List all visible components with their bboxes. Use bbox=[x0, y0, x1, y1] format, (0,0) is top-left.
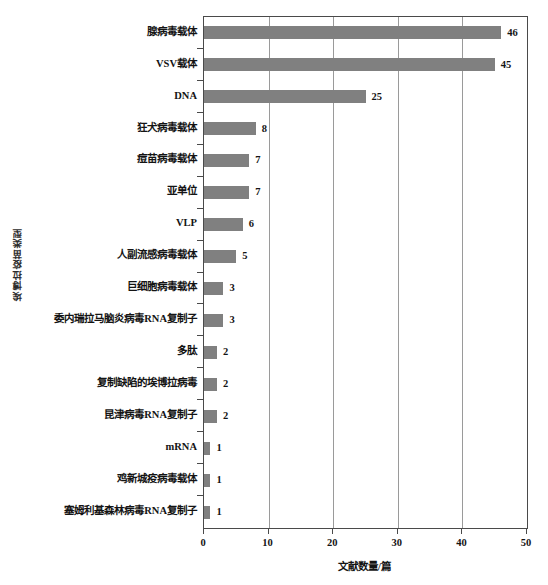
bar-value-label: 1 bbox=[216, 507, 221, 518]
bar-row: 6 bbox=[204, 209, 527, 241]
bar-row: 1 bbox=[204, 464, 527, 496]
bar-row: 3 bbox=[204, 273, 527, 305]
bar-row: 1 bbox=[204, 496, 527, 528]
category-label: 昆津病毒RNA复制子 bbox=[36, 399, 203, 431]
bar-value-label: 7 bbox=[255, 155, 260, 166]
x-axis-tick-labels: 01020304050 bbox=[203, 537, 526, 553]
category-label: VSV载体 bbox=[36, 48, 203, 80]
bar-row: 46 bbox=[204, 17, 527, 49]
x-axis-tick-label: 0 bbox=[200, 537, 205, 548]
bar-value-label: 45 bbox=[501, 60, 512, 71]
category-label: VLP bbox=[36, 208, 203, 240]
category-label: DNA bbox=[36, 80, 203, 112]
bar bbox=[204, 218, 243, 231]
category-label: 人副流感病毒载体 bbox=[36, 240, 203, 272]
bar-row: 7 bbox=[204, 177, 527, 209]
plot-area: 4645258776533222111 bbox=[203, 16, 528, 529]
category-label: 亚单位 bbox=[36, 176, 203, 208]
category-label: 巨细胞病毒载体 bbox=[36, 272, 203, 304]
bar-value-label: 3 bbox=[229, 315, 234, 326]
bar-row: 1 bbox=[204, 432, 527, 464]
ebola-vaccine-type-bar-chart: 埃博拉疫苗类型 腺病毒载体VSV载体DNA狂犬病毒载体痘苗病毒载体亚单位VLP人… bbox=[0, 0, 548, 585]
category-label: 腺病毒载体 bbox=[36, 16, 203, 48]
bar bbox=[204, 154, 249, 167]
bar-row: 5 bbox=[204, 241, 527, 273]
y-axis-title-text: 埃博拉疫苗类型 bbox=[11, 227, 25, 301]
bar-value-label: 8 bbox=[262, 124, 267, 135]
x-axis-tick-label: 40 bbox=[456, 537, 467, 548]
category-axis-labels: 腺病毒载体VSV载体DNA狂犬病毒载体痘苗病毒载体亚单位VLP人副流感病毒载体巨… bbox=[36, 16, 203, 527]
bar-row: 7 bbox=[204, 145, 527, 177]
bar bbox=[204, 506, 210, 519]
x-axis-tick-label: 10 bbox=[262, 537, 273, 548]
bar-row: 2 bbox=[204, 400, 527, 432]
bar bbox=[204, 474, 210, 487]
bar-value-label: 7 bbox=[255, 187, 260, 198]
bar-value-label: 2 bbox=[223, 347, 228, 358]
bar bbox=[204, 90, 366, 103]
bar-row: 2 bbox=[204, 336, 527, 368]
x-axis-tick-label: 20 bbox=[327, 537, 338, 548]
bar-value-label: 1 bbox=[216, 443, 221, 454]
bar-value-label: 6 bbox=[249, 219, 254, 230]
bar-row: 45 bbox=[204, 49, 527, 81]
category-label: mRNA bbox=[36, 431, 203, 463]
bar bbox=[204, 26, 501, 39]
bar-row: 8 bbox=[204, 113, 527, 145]
bar-value-label: 46 bbox=[507, 28, 518, 39]
x-axis-tick-marks bbox=[203, 528, 526, 535]
bar-value-label: 1 bbox=[216, 475, 221, 486]
x-axis-tick-label: 30 bbox=[392, 537, 403, 548]
category-label: 多肽 bbox=[36, 335, 203, 367]
x-axis-tick-label: 50 bbox=[521, 537, 532, 548]
category-label: 塞姆利基森林病毒RNA复制子 bbox=[36, 495, 203, 527]
category-label: 痘苗病毒载体 bbox=[36, 144, 203, 176]
bar-value-label: 2 bbox=[223, 379, 228, 390]
category-label: 鸡新城疫病毒载体 bbox=[36, 463, 203, 495]
bar-value-label: 5 bbox=[242, 251, 247, 262]
bar bbox=[204, 250, 236, 263]
category-label: 委内瑞拉马脑炎病毒RNA复制子 bbox=[36, 303, 203, 335]
category-label: 复制缺陷的埃博拉病毒 bbox=[36, 367, 203, 399]
bar-value-label: 3 bbox=[229, 283, 234, 294]
bar bbox=[204, 410, 217, 423]
bar-series: 4645258776533222111 bbox=[204, 17, 527, 528]
y-axis-title: 埃博拉疫苗类型 bbox=[0, 0, 36, 527]
bar-row: 25 bbox=[204, 81, 527, 113]
bar-row: 2 bbox=[204, 368, 527, 400]
bar bbox=[204, 442, 210, 455]
bar-row: 3 bbox=[204, 304, 527, 336]
bar bbox=[204, 58, 495, 71]
bar-value-label: 25 bbox=[372, 92, 383, 103]
bar bbox=[204, 282, 223, 295]
bar bbox=[204, 314, 223, 327]
bar-value-label: 2 bbox=[223, 411, 228, 422]
category-label: 狂犬病毒载体 bbox=[36, 112, 203, 144]
x-axis-title: 文献数量/篇 bbox=[203, 558, 526, 573]
bar bbox=[204, 186, 249, 199]
bar bbox=[204, 346, 217, 359]
bar bbox=[204, 378, 217, 391]
bar bbox=[204, 122, 256, 135]
